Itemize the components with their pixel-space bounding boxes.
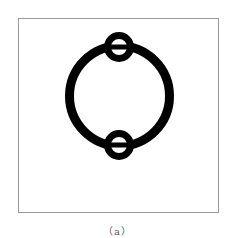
circle-diagram — [0, 0, 235, 238]
bottom-ring — [105, 131, 133, 159]
top-ring — [105, 33, 133, 61]
figure-caption: （a） — [0, 223, 235, 238]
